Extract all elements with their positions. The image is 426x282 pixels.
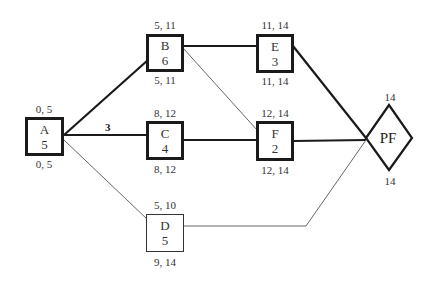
node-f[interactable]: F 2 (256, 121, 294, 161)
finish-node-label[interactable]: PF (380, 130, 397, 147)
node-a-bottom-label: 0, 5 (36, 158, 53, 170)
node-f-bottom-label: 12, 14 (261, 164, 289, 176)
finish-bottom-label: 14 (385, 175, 396, 187)
node-f-top-label: 12, 14 (261, 107, 289, 119)
node-d-bottom-label: 9, 14 (154, 256, 176, 268)
node-b-id: B (161, 38, 170, 53)
node-b-duration: 6 (162, 53, 169, 68)
node-e-bottom-label: 11, 14 (261, 75, 288, 87)
node-f-duration: 2 (272, 141, 279, 156)
node-a-id: A (40, 122, 49, 137)
node-d-id: D (160, 218, 169, 233)
node-d-top-label: 5, 10 (154, 199, 176, 211)
node-e-id: E (271, 39, 279, 54)
edge-f-pf (293, 140, 366, 141)
node-b-top-label: 5, 11 (154, 19, 176, 31)
node-c[interactable]: C 4 (146, 121, 184, 160)
edge-a-d (64, 140, 148, 220)
node-c-duration: 4 (162, 141, 169, 156)
node-b[interactable]: B 6 (146, 34, 184, 72)
edge-a-c-label: 3 (105, 121, 111, 133)
edge-b-f (183, 48, 257, 130)
edge-e-pf (293, 46, 366, 138)
node-e-top-label: 11, 14 (261, 19, 288, 31)
node-b-bottom-label: 5, 11 (154, 74, 176, 86)
node-e-duration: 3 (272, 54, 279, 69)
node-c-top-label: 8, 12 (154, 107, 176, 119)
node-a[interactable]: A 5 (25, 117, 64, 156)
node-a-duration: 5 (41, 137, 48, 152)
node-f-id: F (271, 126, 278, 141)
node-e[interactable]: E 3 (256, 34, 294, 73)
node-a-top-label: 0, 5 (36, 103, 53, 115)
node-d[interactable]: D 5 (146, 214, 184, 252)
node-c-bottom-label: 8, 12 (154, 163, 176, 175)
node-c-id: C (161, 126, 170, 141)
node-d-duration: 5 (162, 233, 169, 248)
finish-top-label: 14 (385, 91, 396, 103)
